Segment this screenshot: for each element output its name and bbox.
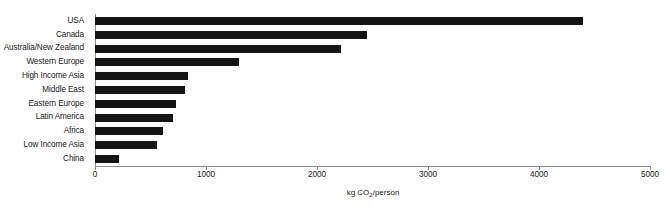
category-label: Eastern Europe [0, 97, 89, 111]
bar-row [95, 138, 650, 152]
bar [95, 45, 341, 53]
x-axis-title-suffix: /person [373, 188, 400, 197]
bar-row [95, 97, 650, 111]
bar-row [95, 14, 650, 28]
category-label: USA [0, 14, 89, 28]
bar [95, 155, 119, 163]
bar [95, 31, 367, 39]
bar [95, 86, 185, 94]
x-axis-title: kg CO2/person [95, 189, 651, 197]
bar [95, 114, 173, 122]
bar [95, 127, 163, 135]
x-tick-label: 3000 [419, 171, 437, 179]
x-tick-label: 0 [93, 171, 98, 179]
category-label: China [0, 152, 89, 166]
bar [95, 72, 188, 80]
x-axis-title-subscript: 2 [369, 192, 372, 198]
x-axis-title-prefix: kg CO [347, 188, 370, 197]
bar-row [95, 111, 650, 125]
category-label: Middle East [0, 83, 89, 97]
category-label: Canada [0, 28, 89, 42]
x-tick-label: 5000 [641, 171, 659, 179]
bar-series [95, 14, 650, 166]
bar-row [95, 28, 650, 42]
bar-row [95, 83, 650, 97]
category-label: Low Income Asia [0, 138, 89, 152]
bar-row [95, 55, 650, 69]
category-label: Latin America [0, 111, 89, 125]
co2-per-person-bar-chart: USACanadaAustralia/New ZealandWestern Eu… [0, 0, 669, 213]
category-axis-labels: USACanadaAustralia/New ZealandWestern Eu… [0, 14, 89, 166]
category-label: Western Europe [0, 55, 89, 69]
bar [95, 58, 239, 66]
bar-row [95, 125, 650, 139]
plot-area [95, 14, 650, 166]
bar [95, 100, 176, 108]
bar-row [95, 42, 650, 56]
bar-row [95, 152, 650, 166]
bar-row [95, 69, 650, 83]
x-axis-ticks: 010002000300040005000 [95, 166, 651, 182]
x-tick-label: 4000 [530, 171, 548, 179]
category-label: High Income Asia [0, 69, 89, 83]
bar [95, 17, 583, 25]
x-tick-label: 1000 [197, 171, 215, 179]
x-tick-label: 2000 [308, 171, 326, 179]
category-label: Africa [0, 125, 89, 139]
bar [95, 141, 157, 149]
category-label: Australia/New Zealand [0, 42, 89, 56]
